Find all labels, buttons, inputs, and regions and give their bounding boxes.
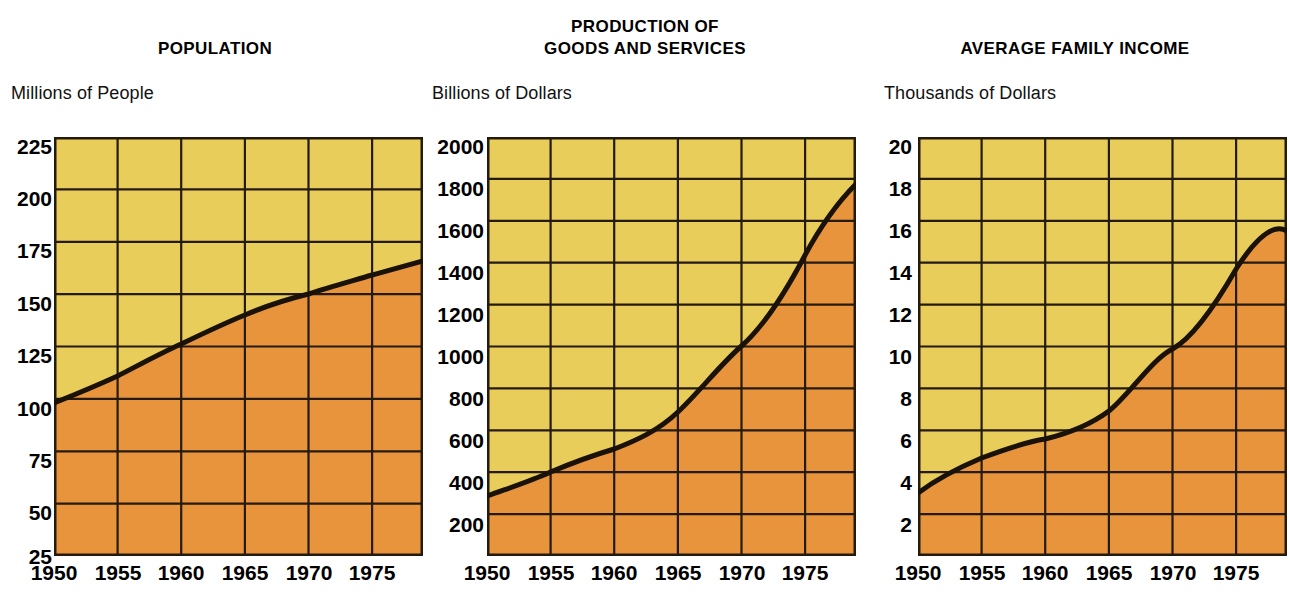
y-tick-label: 100 — [17, 398, 52, 419]
plot-area-population[interactable] — [54, 137, 423, 556]
plot-area-average-family-income[interactable] — [918, 137, 1287, 556]
y-tick-label: 4 — [900, 472, 912, 493]
y-tick-label: 1800 — [437, 178, 484, 199]
chart-panel-production: PRODUCTION OF GOODS AND SERVICES Billion… — [430, 0, 860, 603]
plot-area-production[interactable] — [487, 137, 856, 556]
area-chart-average-family-income — [918, 137, 1287, 556]
y-tick-label: 125 — [17, 345, 52, 366]
y-tick-label: 12 — [889, 304, 912, 325]
y-tick-label: 600 — [449, 430, 484, 451]
y-tick-label: 800 — [449, 388, 484, 409]
y-tick-label: 50 — [29, 502, 52, 523]
y-tick-label: 16 — [889, 220, 912, 241]
y-tick-label: 225 — [17, 136, 52, 157]
y-tick-label: 14 — [889, 262, 912, 283]
area-chart-population — [54, 137, 423, 556]
y-tick-label: 10 — [889, 346, 912, 367]
x-tick-label: 1975 — [1196, 562, 1276, 583]
y-tick-label: 150 — [17, 293, 52, 314]
page-title-production: PRODUCTION OF GOODS AND SERVICES — [430, 16, 860, 60]
y-tick-label: 1600 — [437, 220, 484, 241]
area-chart-production — [487, 137, 856, 556]
y-tick-label: 2 — [900, 514, 912, 535]
y-tick-label: 2000 — [437, 136, 484, 157]
y-tick-label: 75 — [29, 450, 52, 471]
y-tick-label: 200 — [449, 514, 484, 535]
y-tick-label: 200 — [17, 188, 52, 209]
y-tick-label: 20 — [889, 136, 912, 157]
y-axis-ticks-population: 225 200 175 150 125 100 75 50 25 — [0, 0, 52, 603]
y-tick-label: 175 — [17, 240, 52, 261]
y-axis-ticks-production: 2000 1800 1600 1400 1200 1000 800 600 40… — [390, 0, 484, 603]
y-tick-label: 18 — [889, 178, 912, 199]
y-tick-label: 8 — [900, 388, 912, 409]
y-tick-label: 1200 — [437, 304, 484, 325]
y-tick-label: 400 — [449, 472, 484, 493]
page-title-average-family-income: AVERAGE FAMILY INCOME — [860, 38, 1290, 60]
y-tick-label: 1400 — [437, 262, 484, 283]
chart-panel-average-family-income: AVERAGE FAMILY INCOME Thousands of Dolla… — [860, 0, 1290, 603]
chart-panel-population: POPULATION Millions of People 225 200 17… — [0, 0, 430, 603]
y-axis-ticks-average-family-income: 20 18 16 14 12 10 8 6 4 2 — [852, 0, 912, 603]
page-title-population: POPULATION — [0, 38, 430, 60]
y-tick-label: 6 — [900, 430, 912, 451]
y-tick-label: 1000 — [437, 346, 484, 367]
x-tick-label: 1975 — [765, 562, 845, 583]
